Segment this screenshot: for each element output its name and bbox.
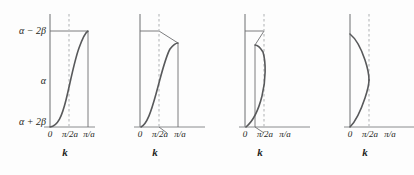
x-axis-name: k	[352, 147, 378, 158]
band-curve-lower	[350, 80, 369, 127]
x-tick-full: π/a	[274, 130, 296, 139]
panel-2-slightly-folded: 0 π/2a π/a k	[95, 0, 190, 175]
panel-3-strongly-folded: 0 π/2a π/a k	[200, 0, 295, 175]
x-tick-full: π/a	[379, 130, 401, 139]
band-curve-upper	[350, 34, 369, 80]
panel-1-full-band: α − 2β α α + 2β 0 π/2a π/a k	[0, 0, 95, 175]
top-connector-guide	[159, 31, 178, 43]
panel-4-lens-closed: 0 π/2a π/a k	[305, 0, 414, 175]
top-connector-guide	[255, 31, 264, 45]
panel-3-plot	[200, 0, 310, 145]
panel-1-plot	[0, 0, 95, 145]
x-tick-full: π/a	[169, 130, 191, 139]
x-axis-name: k	[52, 147, 78, 158]
panel-2-plot	[95, 0, 205, 145]
band-curve	[246, 45, 265, 127]
band-structure-figure: α − 2β α α + 2β 0 π/2a π/a k	[0, 0, 414, 175]
x-axis-name: k	[247, 147, 273, 158]
panel-4-plot	[305, 0, 414, 145]
x-axis-name: k	[142, 147, 168, 158]
